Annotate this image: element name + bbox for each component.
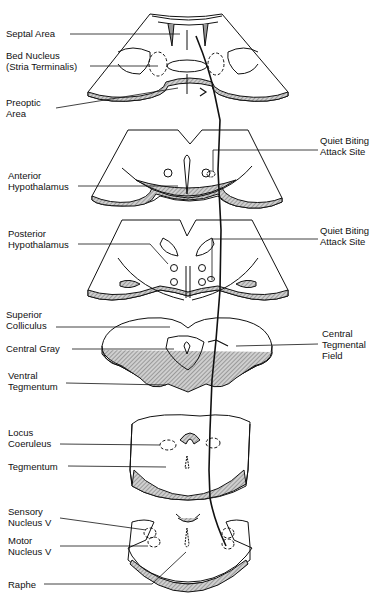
label-tegmentum: Tegmentum [8,461,58,472]
label-quiet-biting-attack-site-1: Quiet BitingAttack Site [320,135,369,157]
label-central-gray: Central Gray [6,343,60,354]
label-posterior-hypothalamus: PosteriorHypothalamus [8,228,69,250]
leader-lines [44,34,318,584]
label-locus-coeruleus: LocusCoeruleus [8,427,51,449]
label-preoptic-area: PreopticArea [6,97,41,119]
label-septal-area: Septal Area [6,28,55,39]
section-anterior-hypothalamus [92,130,282,208]
label-sensory-nucleus-v: SensoryNucleus V [8,506,51,528]
section-posterior-hypothalamus [88,220,288,300]
label-anterior-hypothalamus: AnteriorHypothalamus [8,170,69,192]
brain-sections-diagram [0,0,379,594]
label-quiet-biting-attack-site-2: Quiet BitingAttack Site [320,225,369,247]
label-bed-nucleus: Bed Nucleus(Stria Terminalis) [6,50,77,72]
label-motor-nucleus-v: MotorNucleus V [8,535,51,557]
label-raphe: Raphe [8,579,36,590]
label-central-tegmental-field: CentralTegmentalField [322,328,366,361]
section-forebrain [88,14,288,101]
section-midbrain [102,318,272,392]
section-medulla [128,514,252,592]
section-pons [130,415,250,500]
label-ventral-tegmentum: VentralTegmentum [8,370,58,392]
label-superior-colliculus: SuperiorColliculus [6,309,47,331]
